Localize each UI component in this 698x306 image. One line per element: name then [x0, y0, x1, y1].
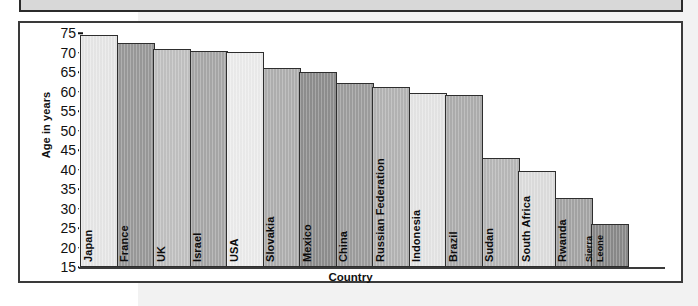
bar-label: Indonesia	[410, 210, 422, 262]
bar[interactable]: China	[336, 83, 374, 267]
bar[interactable]: France	[117, 43, 155, 267]
bar-label: Sudan	[483, 228, 495, 262]
bar[interactable]: Brazil	[445, 95, 483, 267]
bar-label: Russian Federation	[374, 158, 386, 262]
bar-label: France	[118, 225, 130, 262]
y-tick-label: 25	[38, 221, 76, 235]
bar[interactable]: Mexico	[299, 72, 337, 267]
bar[interactable]: Indonesia	[409, 93, 447, 267]
bar-label: Mexico	[301, 224, 313, 262]
bar-label: Israel	[191, 233, 203, 262]
bar-label: USA	[228, 238, 240, 262]
bar[interactable]: Israel	[190, 51, 228, 267]
bar[interactable]: South Africa	[518, 171, 556, 267]
y-tick-label: 50	[38, 124, 76, 138]
bar-label: Brazil	[447, 231, 459, 262]
bar-label: Rwanda	[556, 219, 568, 262]
x-axis-line	[79, 267, 665, 269]
y-tick-label: 75	[38, 26, 76, 40]
y-tick-label: 35	[38, 182, 76, 196]
bar[interactable]: Slovakia	[263, 68, 301, 267]
bar-label: China	[337, 231, 349, 262]
y-tick-label: 55	[38, 104, 76, 118]
y-tick-label: 60	[38, 85, 76, 99]
bar-label: Sierra Leone	[584, 216, 605, 262]
y-tick-label: 30	[38, 202, 76, 216]
y-tick-label: 70	[38, 46, 76, 60]
plot-area: Age in years 75706560555045403530252015 …	[20, 23, 681, 281]
x-axis-title: Country	[20, 271, 681, 283]
clipped-panel-above	[19, 0, 683, 12]
bar-label: Slovakia	[264, 217, 276, 262]
y-tick-label: 45	[38, 143, 76, 157]
bar[interactable]: Japan	[80, 35, 118, 267]
bar-label: Japan	[82, 230, 94, 262]
bar-label: South Africa	[520, 196, 532, 262]
bar-label: UK	[155, 246, 167, 262]
bar[interactable]: UK	[153, 49, 191, 267]
bar[interactable]: Sierra Leone	[591, 224, 629, 267]
bar[interactable]: USA	[226, 52, 264, 267]
bar-series: JapanFranceUKIsraelUSASlovakiaMexicoChin…	[80, 33, 628, 267]
bar[interactable]: Russian Federation	[372, 87, 410, 267]
bar-chart-figure: Age in years 75706560555045403530252015 …	[18, 21, 683, 283]
y-tick-label: 65	[38, 65, 76, 79]
y-tick-label: 20	[38, 241, 76, 255]
bar[interactable]: Sudan	[482, 158, 520, 267]
y-tick-label: 40	[38, 163, 76, 177]
